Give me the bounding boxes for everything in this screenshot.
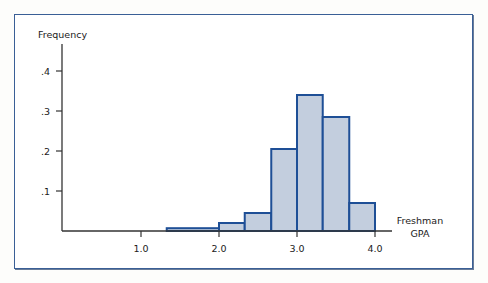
x-tick-label: 4.0 xyxy=(367,243,382,254)
y-tick-label: .3 xyxy=(41,106,50,117)
histogram-bar xyxy=(245,213,272,231)
x-tick-label: 2.0 xyxy=(211,243,226,254)
x-tick-label: 1.0 xyxy=(133,243,148,254)
y-tick-label: .4 xyxy=(41,66,50,77)
y-axis-ticks: .1.2.3.4 xyxy=(41,66,62,197)
y-axis-label: Frequency xyxy=(38,29,87,40)
histogram-bar xyxy=(271,149,297,231)
histogram-bars xyxy=(167,95,375,231)
histogram-chart: Frequency .1.2.3.4 1.02.03.04.0 Freshman… xyxy=(0,0,488,283)
x-axis-label-line2: GPA xyxy=(411,228,430,239)
x-axis-ticks: 1.02.03.04.0 xyxy=(133,231,382,254)
histogram-bar xyxy=(349,203,375,231)
y-tick-label: .1 xyxy=(41,186,50,197)
histogram-bar xyxy=(219,223,245,231)
histogram-bar xyxy=(323,117,350,231)
histogram-bar xyxy=(297,95,323,231)
x-tick-label: 3.0 xyxy=(289,243,304,254)
y-tick-label: .2 xyxy=(41,146,50,157)
x-axis-label-line1: Freshman xyxy=(397,215,443,226)
